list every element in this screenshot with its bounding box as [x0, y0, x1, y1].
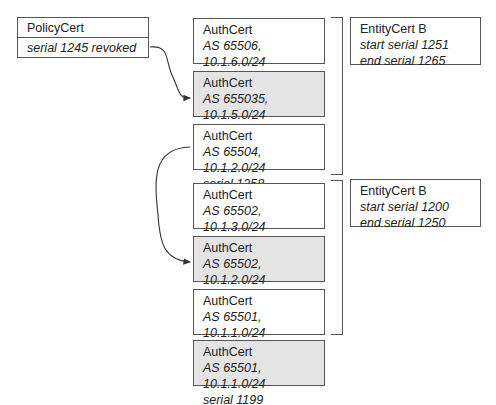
- auth-cert-box: AuthCert AS 65502, 10.1.3.0/24 serial 12…: [193, 183, 325, 229]
- entity-cert-end-serial: end serial 1250: [360, 215, 480, 231]
- entity-cert-range-bracket: [331, 180, 343, 335]
- entity-cert-title: EntityCert B: [360, 183, 480, 199]
- auth-cert-box-shaded: AuthCert AS 65501, 10.1.1.0/24 serial 11…: [193, 340, 325, 386]
- auth-cert-as-prefix: AS 65501, 10.1.1.0/24: [203, 309, 324, 341]
- entity-cert-box: EntityCert B start serial 1200 end seria…: [350, 179, 481, 227]
- entity-cert-range-bracket: [331, 17, 343, 175]
- auth-cert-box: AuthCert AS 65501, 10.1.1.0/24 serial 12…: [193, 289, 325, 335]
- auth-cert-serial: serial 1199: [203, 392, 324, 405]
- entity-cert-box: EntityCert B start serial 1251 end seria…: [350, 17, 481, 65]
- auth-cert-box-shaded: AuthCert AS 655035, 10.1.5.0/24 serial 1…: [193, 71, 325, 117]
- revocation-arrow: [150, 47, 190, 98]
- policy-cert-revocation: serial 1245 revoked: [18, 38, 148, 56]
- auth-cert-as-prefix: AS 65506, 10.1.6.0/24: [203, 38, 324, 70]
- auth-cert-as-prefix: AS 65502, 10.1.3.0/24: [203, 203, 324, 235]
- prefix-reference-arrow: [156, 147, 190, 262]
- entity-cert-start-serial: start serial 1251: [360, 37, 480, 53]
- auth-cert-as-prefix: AS 65502, 10.1.2.0/24: [203, 256, 324, 288]
- auth-cert-title: AuthCert: [203, 75, 324, 91]
- auth-cert-as-prefix: AS 65504, 10.1.2.0/24: [203, 144, 324, 176]
- auth-cert-box: AuthCert AS 65504, 10.1.2.0/24 serial 12…: [193, 124, 325, 170]
- policy-cert-title: PolicyCert: [18, 18, 148, 38]
- policy-cert-box: PolicyCert serial 1245 revoked: [17, 17, 149, 58]
- auth-cert-title: AuthCert: [203, 187, 324, 203]
- auth-cert-as-prefix: AS 65501, 10.1.1.0/24: [203, 360, 324, 392]
- auth-cert-title: AuthCert: [203, 293, 324, 309]
- entity-cert-start-serial: start serial 1200: [360, 199, 480, 215]
- auth-cert-title: AuthCert: [203, 22, 324, 38]
- auth-cert-title: AuthCert: [203, 128, 324, 144]
- entity-cert-end-serial: end serial 1265: [360, 53, 480, 69]
- entity-cert-title: EntityCert B: [360, 21, 480, 37]
- auth-cert-as-prefix: AS 655035, 10.1.5.0/24: [203, 91, 324, 123]
- auth-cert-title: AuthCert: [203, 240, 324, 256]
- auth-cert-box-shaded: AuthCert AS 65502, 10.1.2.0/24 serial 12…: [193, 236, 325, 282]
- auth-cert-title: AuthCert: [203, 344, 324, 360]
- auth-cert-box: AuthCert AS 65506, 10.1.6.0/24 serial 12…: [193, 18, 325, 64]
